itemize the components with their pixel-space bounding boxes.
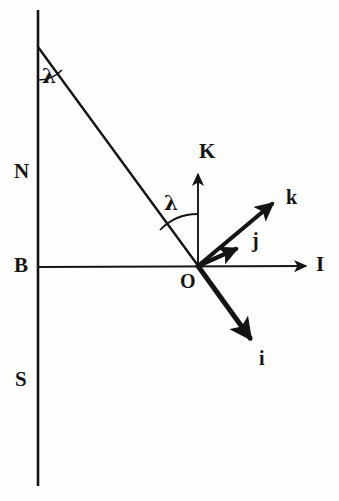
cardinal-label-south: S — [15, 369, 27, 390]
horizontal-axis-I-line — [38, 266, 306, 267]
origin-label-O: O — [180, 271, 196, 291]
cardinal-label-bearing: B — [14, 255, 28, 276]
axis-label-K: K — [199, 141, 215, 162]
cardinal-label-north: N — [14, 161, 29, 182]
vector-k-arrow — [198, 204, 272, 266]
vector-label-i: i — [259, 348, 265, 368]
figure-canvas: N B S I K k j i O λ λ — [0, 0, 339, 501]
axis-label-I: I — [316, 254, 324, 275]
slant-line-lambda — [38, 47, 199, 267]
angle-label-lambda-lower: λ — [164, 193, 178, 213]
vector-label-j: j — [252, 230, 259, 250]
vector-i-arrow — [198, 266, 250, 338]
angle-label-lambda-upper: λ — [42, 66, 56, 86]
vector-label-k: k — [286, 187, 297, 207]
